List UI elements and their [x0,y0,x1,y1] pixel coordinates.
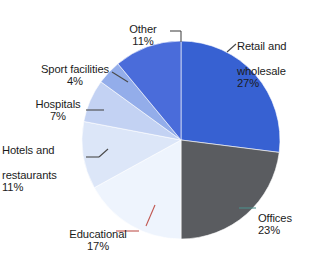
slice-label-other: Other 11% [110,10,176,60]
slice-label-text-hotels-and-restaurants: Hotels and [2,144,55,156]
slice-label-text-educational: Educational [69,228,126,240]
slice-value-hospitals: 7% [18,110,98,123]
slice-value-retail-and-wholesale: 27% [237,77,321,90]
slice-label-text2-hotels-and-restaurants: restaurants [2,169,57,181]
slice-label-text-other: Other [129,23,156,35]
slice-label-hotels-and-restaurants: Hotels and restaurants 11% [2,131,98,207]
slice-label-sport-facilities: Sport facilities 4% [30,50,120,100]
slice-value-offices: 23% [258,224,320,237]
slice-label-offices: Offices 23% [258,199,320,249]
slice-label-text2-retail-and-wholesale: wholesale [237,65,286,77]
slice-label-text-offices: Offices [258,212,292,224]
slice-value-sport-facilities: 4% [30,75,120,88]
slice-label-retail-and-wholesale: Retail and wholesale 27% [237,27,321,103]
slice-label-text-sport-facilities: Sport facilities [41,63,109,75]
slice-value-other: 11% [110,35,176,48]
slice-value-hotels-and-restaurants: 11% [2,181,98,194]
pie-chart: Retail and wholesale 27% Offices 23% Edu… [0,0,323,261]
slice-label-educational: Educational 17% [56,215,140,261]
slice-label-text-retail-and-wholesale: Retail and [237,40,286,52]
leader-line-retail-and-wholesale [227,44,236,52]
slice-value-educational: 17% [56,240,140,253]
